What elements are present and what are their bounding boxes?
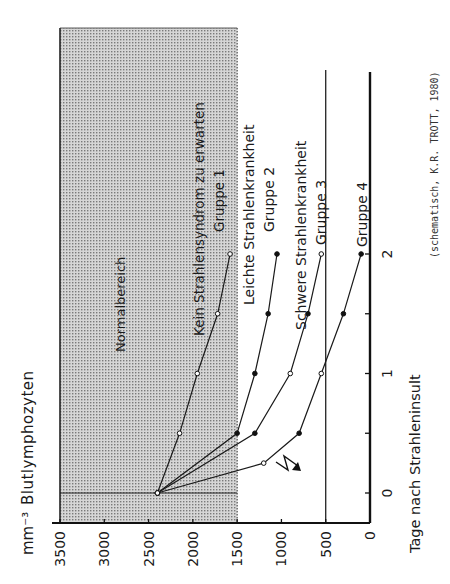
data-point <box>297 431 302 436</box>
svg-text:3500: 3500 <box>52 531 68 567</box>
svg-text:2000: 2000 <box>185 531 201 567</box>
group1-description: Kein Strahlensyndrom zu erwarten <box>191 102 207 336</box>
data-point <box>275 252 280 257</box>
data-point <box>235 431 240 436</box>
group3-description: Schwere Strahlenkrankheit <box>293 140 309 330</box>
svg-text:1: 1 <box>379 369 395 378</box>
normal-range-area <box>60 28 237 523</box>
data-point <box>266 311 271 316</box>
svg-text:0: 0 <box>362 531 378 540</box>
svg-text:3000: 3000 <box>96 531 112 567</box>
data-point <box>177 431 182 436</box>
data-point <box>261 461 266 466</box>
group2-description: Leichte Strahlenkrankheit <box>241 124 257 305</box>
svg-text:1500: 1500 <box>229 531 245 567</box>
group2-name: Gruppe 2 <box>261 167 277 232</box>
svg-text:2500: 2500 <box>141 531 157 567</box>
group4-name: Gruppe 4 <box>354 182 370 247</box>
svg-text:2: 2 <box>379 250 395 259</box>
unit-label: mm⁻³ <box>19 512 37 555</box>
data-point <box>215 311 220 316</box>
source-note: (schematisch, K.R. TROTT, 1980) <box>429 71 440 258</box>
group3-name: Gruppe 3 <box>313 180 329 245</box>
lightning-icon <box>276 456 301 471</box>
data-point <box>195 371 200 376</box>
data-point <box>341 311 346 316</box>
data-point <box>319 371 324 376</box>
value-axis-ticks: 0500100015002000250030003500 <box>52 519 378 567</box>
y-axis-title: Blutlymphozyten <box>19 370 37 505</box>
svg-text:0: 0 <box>379 489 395 498</box>
data-point <box>253 371 258 376</box>
x-axis-title: Tage nach Strahleninsult <box>407 374 423 554</box>
data-point <box>359 252 364 257</box>
data-point <box>319 252 324 257</box>
data-point <box>288 371 293 376</box>
data-point <box>155 491 160 496</box>
svg-text:1000: 1000 <box>273 531 289 567</box>
normal-range-label: Normalbereich <box>113 257 128 352</box>
data-point <box>228 252 233 257</box>
lymphocyte-chart: 0500100015002000250030003500 012 mm⁻³ Bl… <box>0 0 450 584</box>
group1-name: Gruppe 1 <box>211 169 227 232</box>
data-point <box>253 431 258 436</box>
svg-text:500: 500 <box>318 531 334 558</box>
